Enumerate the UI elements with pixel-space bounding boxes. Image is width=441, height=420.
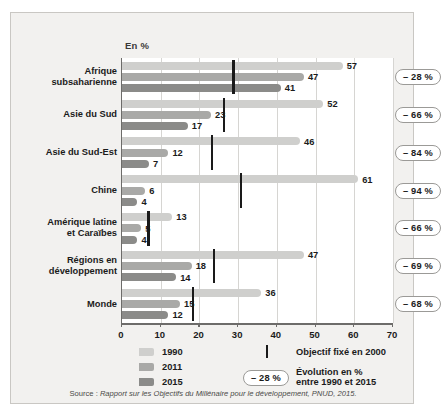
gridline [161,58,162,323]
plot-area: 5747415223174612761641354471814361512 [121,58,393,323]
tick-label: 30 [232,329,243,340]
tick-mark [315,323,316,327]
bar-value-label: 41 [285,84,295,93]
source-note: Source : Rapport sur les Objectifs du Mi… [11,389,415,398]
target-marker [223,98,225,132]
evolution-badge: – 66 % [395,220,441,236]
legend-evolution-badge: – 28 % [243,370,289,386]
gridline [393,58,394,323]
category-label-line: et Caraïbes [17,228,117,239]
tick-mark [353,323,354,327]
bar-value-label: 61 [362,176,372,185]
bar-value-label: 57 [347,62,357,71]
target-marker [192,287,194,321]
bar-value-label: 4 [141,236,146,245]
evolution-badge: – 68 % [395,296,441,312]
bar [122,149,168,157]
legend-label: 2011 [162,362,182,372]
evolution-badge: – 94 % [395,183,441,199]
bar [122,187,145,195]
bar-value-label: 13 [176,213,186,222]
tick-mark [198,323,199,327]
bar [122,73,304,81]
gridline [238,58,239,323]
bar-value-label: 17 [192,122,202,131]
bar [122,84,281,92]
legend-label: 1990 [162,347,183,357]
x-axis [121,323,392,325]
category-label: Asie du Sud [17,109,117,120]
bar-value-label: 4 [141,198,146,207]
tick-label: 0 [118,329,123,340]
tick-label: 60 [348,329,359,340]
category-label: Chine [17,185,117,196]
bar [122,273,176,281]
category-label: Monde [17,299,117,310]
evolution-badge: – 84 % [395,145,441,161]
target-marker [240,173,242,207]
target-marker [211,135,213,169]
bar [122,311,168,319]
gridline [199,58,200,323]
legend-target-label: Objectif fixé en 2000 [296,347,386,357]
target-marker [232,60,234,94]
tick-label: 70 [387,329,398,340]
bar-value-label: 47 [308,73,318,82]
category-label-line: développement [17,266,117,277]
bar [122,160,149,168]
target-marker [147,211,149,245]
bar-value-label: 18 [196,262,206,271]
bar [122,122,188,130]
category-label-line: Régions en [17,255,117,266]
gridline [354,58,355,323]
legend-swatch [139,378,154,386]
tick-mark [276,323,277,327]
category-label: Amérique latineet Caraïbes [17,217,117,239]
category-label-line: subsaharienne [17,77,117,88]
bar [122,300,180,308]
category-label-line: Asie du Sud-Est [17,147,117,158]
tick-label: 40 [271,329,282,340]
category-label-line: Afrique [17,66,117,77]
legend-label: 2015 [162,377,183,387]
bar-value-label: 12 [172,149,182,158]
gridline [277,58,278,323]
tick-mark [121,323,122,327]
tick-mark [160,323,161,327]
bar [122,198,137,206]
tick-mark [237,323,238,327]
figure-panel: En % AfriquesubsaharienneAsie du SudAsie… [10,12,414,404]
tick-label: 20 [193,329,204,340]
bar-value-label: 12 [172,311,182,320]
bar [122,236,137,244]
bar-value-label: 46 [304,138,314,147]
tick-label: 50 [309,329,320,340]
category-label-column: AfriquesubsaharienneAsie du SudAsie du S… [15,58,117,323]
bar [122,262,192,270]
bar [122,224,141,232]
bar-value-label: 14 [180,274,190,283]
category-label: Régions endéveloppement [17,255,117,277]
unit-label: En % [125,40,149,51]
evolution-badge: – 69 % [395,258,441,274]
bar [122,111,211,119]
category-label-line: Asie du Sud [17,109,117,120]
source-text: Rapport sur les Objectifs du Millénaire … [100,389,357,398]
evolution-badge: – 66 % [395,107,441,123]
legend-target-marker [266,345,268,358]
legend-evolution-line1: Évolution en % [296,367,376,377]
legend-swatch [139,348,154,356]
category-label-line: Amérique latine [17,217,117,228]
category-label-line: Chine [17,185,117,196]
tick-mark [392,323,393,327]
category-label: Asie du Sud-Est [17,147,117,158]
bar-value-label: 7 [153,160,158,169]
target-marker [213,249,215,283]
bar-value-label: 47 [308,251,318,260]
bar-value-label: 52 [327,100,337,109]
legend-evolution-line2: entre 1990 et 2015 [296,377,376,387]
category-label-line: Monde [17,299,117,310]
bar-value-label: 6 [149,187,154,196]
gridline [316,58,317,323]
source-prefix: Source : [69,389,99,398]
